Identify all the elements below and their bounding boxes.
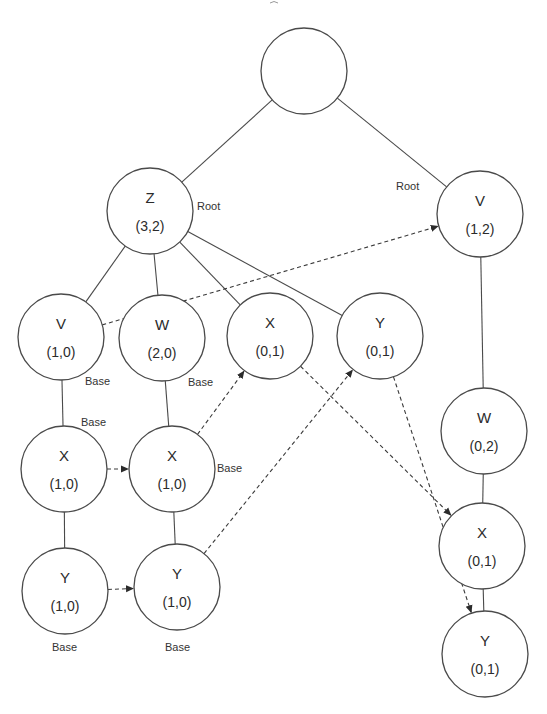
node-value: (0,2): [470, 438, 499, 454]
node-circle: [21, 426, 107, 512]
node-circle: [442, 611, 528, 697]
node-circle: [134, 544, 220, 630]
node-value: (0,1): [366, 343, 395, 359]
tree-edge-top-Z: [182, 100, 272, 182]
node-name: X: [59, 447, 69, 464]
node-value: (1,0): [163, 594, 192, 610]
link-arrow-Y10a-Y10b: [108, 589, 133, 590]
tree-edge-Z-V10: [86, 246, 125, 302]
node-X10b: X(1,0): [129, 426, 215, 512]
node-value: (1,2): [466, 221, 495, 237]
node-circle: [119, 295, 205, 381]
annotation-label-root: Root: [197, 200, 220, 212]
annotation-label-base: Base: [52, 641, 77, 653]
node-circle: [337, 293, 423, 379]
node-value: (3,2): [136, 218, 165, 234]
node-value: (0,1): [256, 343, 285, 359]
node-value: (1,0): [158, 476, 187, 492]
node-V10: V(1,0): [18, 294, 104, 380]
nodes-layer: Z(3,2)V(1,2)V(1,0)W(2,0)X(0,1)Y(0,1)X(1,…: [18, 28, 528, 697]
tree-edge-X01b-Y01b: [483, 589, 484, 611]
tree-edge-V10-X10a: [62, 380, 63, 426]
tree-edge-Z-W20: [154, 254, 158, 295]
node-circle: [437, 171, 523, 257]
node-W20: W(2,0): [119, 295, 205, 381]
node-Y01b: Y(0,1): [442, 611, 528, 697]
node-value: (0,1): [471, 661, 500, 677]
node-Z: Z(3,2): [107, 168, 193, 254]
node-name: X: [167, 447, 177, 464]
node-Y10a: Y(1,0): [22, 548, 108, 634]
annotation-label-base: Base: [188, 376, 213, 388]
tree-edge-W02-X01b: [483, 474, 484, 503]
node-W02: W(0,2): [441, 388, 527, 474]
node-circle: [441, 388, 527, 474]
annotation-label-base: Base: [85, 375, 110, 387]
node-name: Y: [375, 314, 385, 331]
node-V12: V(1,2): [437, 171, 523, 257]
annotation-label-base: Base: [217, 462, 242, 474]
node-value: (2,0): [148, 345, 177, 361]
node-circle: [227, 293, 313, 379]
node-value: (1,0): [50, 476, 79, 492]
top-edge-fragment: [270, 2, 278, 4]
node-Y10b: Y(1,0): [134, 544, 220, 630]
link-arrow-X01a-X01b: [301, 366, 451, 515]
annotation-label-root: Root: [396, 180, 419, 192]
node-value: (1,0): [47, 344, 76, 360]
node-name: Y: [60, 569, 70, 586]
node-X01a: X(0,1): [227, 293, 313, 379]
annotation-label-base: Base: [81, 416, 106, 428]
node-name: W: [477, 409, 492, 426]
tree-edge-Z-X01a: [180, 242, 240, 305]
node-X10a: X(1,0): [21, 426, 107, 512]
node-value: (1,0): [51, 598, 80, 614]
node-name: Y: [172, 565, 182, 582]
node-name: X: [477, 524, 487, 541]
node-circle: [439, 503, 525, 589]
diagram-canvas: Z(3,2)V(1,2)V(1,0)W(2,0)X(0,1)Y(0,1)X(1,…: [0, 0, 547, 714]
node-value: (0,1): [468, 553, 497, 569]
node-name: Z: [145, 189, 154, 206]
node-Y01a: Y(0,1): [337, 293, 423, 379]
node-name: Y: [480, 632, 490, 649]
node-name: X: [265, 314, 275, 331]
node-circle: [129, 426, 215, 512]
node-circle: [22, 548, 108, 634]
tree-edge-top-V12: [337, 98, 446, 187]
tree-edge-X10b-Y10b: [174, 512, 175, 544]
node-name: V: [475, 192, 485, 209]
node-name: V: [56, 315, 66, 332]
node-X01b: X(0,1): [439, 503, 525, 589]
tree-edge-V12-W02: [481, 257, 483, 388]
annotation-label-base: Base: [165, 641, 190, 653]
node-circle: [107, 168, 193, 254]
node-top: [261, 28, 347, 114]
node-circle: [261, 28, 347, 114]
node-circle: [18, 294, 104, 380]
node-name: W: [155, 316, 170, 333]
tree-edge-W20-X10b: [165, 381, 168, 426]
